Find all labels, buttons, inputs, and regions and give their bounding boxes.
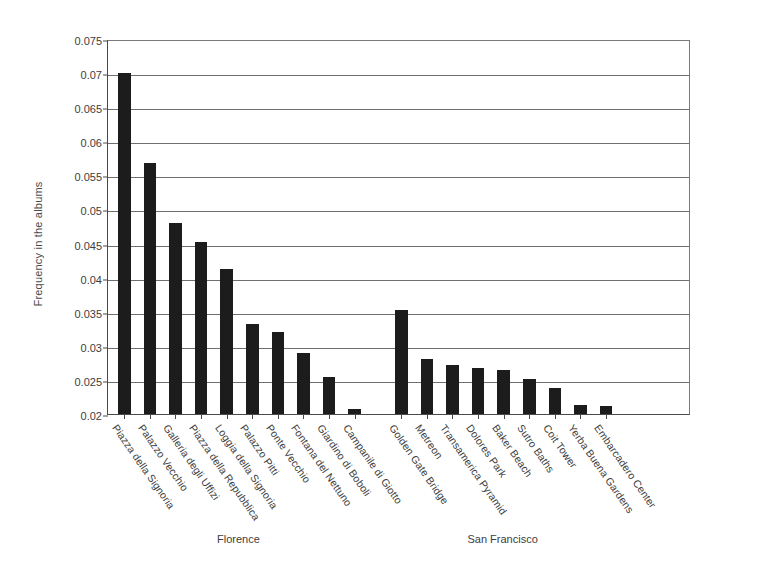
x-tick-mark — [150, 414, 151, 419]
y-tick-mark — [103, 177, 108, 178]
bar — [600, 406, 613, 414]
bar — [169, 223, 182, 414]
y-tick-label: 0.06 — [81, 137, 102, 149]
y-tick-label: 0.075 — [74, 35, 102, 47]
x-tick-mark — [580, 414, 581, 419]
y-tick-mark — [103, 143, 108, 144]
y-tick-label: 0.02 — [81, 410, 102, 422]
bar — [144, 163, 157, 414]
x-tick-mark — [201, 414, 202, 419]
y-tick-label: 0.07 — [81, 69, 102, 81]
y-tick-label: 0.035 — [74, 308, 102, 320]
y-tick-mark — [103, 75, 108, 76]
group-label: San Francisco — [467, 533, 537, 545]
y-tick-mark — [103, 211, 108, 212]
bar — [272, 332, 285, 414]
y-axis-title: Frequency in the albums — [32, 144, 44, 344]
y-tick-label: 0.04 — [81, 274, 102, 286]
bar — [118, 73, 131, 414]
x-tick-mark — [478, 414, 479, 419]
x-tick-mark — [555, 414, 556, 419]
bar-chart-figure: Frequency in the albums 0.020.0250.030.0… — [0, 0, 769, 573]
x-tick-mark — [227, 414, 228, 419]
gridline — [108, 211, 689, 212]
gridline — [108, 75, 689, 76]
bar — [574, 405, 587, 414]
x-tick-mark — [401, 414, 402, 419]
x-tick-mark — [278, 414, 279, 419]
y-tick-label: 0.055 — [74, 171, 102, 183]
y-tick-mark — [103, 41, 108, 42]
x-tick-mark — [606, 414, 607, 419]
y-tick-label: 0.065 — [74, 103, 102, 115]
y-tick-label: 0.025 — [74, 376, 102, 388]
y-tick-mark — [103, 381, 108, 382]
x-tick-mark — [303, 414, 304, 419]
x-tick-mark — [427, 414, 428, 419]
bar — [297, 353, 310, 414]
y-tick-mark — [103, 347, 108, 348]
x-tick-mark — [452, 414, 453, 419]
y-tick-mark — [103, 109, 108, 110]
bar — [446, 365, 459, 414]
bar — [323, 377, 336, 415]
x-tick-mark — [504, 414, 505, 419]
x-tick-mark — [355, 414, 356, 419]
bar — [220, 269, 233, 414]
bar — [523, 379, 536, 414]
y-tick-label: 0.045 — [74, 240, 102, 252]
y-tick-mark — [103, 313, 108, 314]
x-tick-mark — [329, 414, 330, 419]
y-tick-mark — [103, 416, 108, 417]
y-tick-mark — [103, 279, 108, 280]
bar — [497, 370, 510, 414]
x-tick-mark — [175, 414, 176, 419]
plot-area: 0.020.0250.030.0350.040.0450.050.0550.06… — [107, 40, 690, 415]
bar — [472, 368, 485, 414]
y-tick-label: 0.05 — [81, 205, 102, 217]
group-label: Florence — [217, 533, 260, 545]
bar — [395, 310, 408, 414]
x-tick-mark — [252, 414, 253, 419]
gridline — [108, 177, 689, 178]
x-tick-mark — [529, 414, 530, 419]
bar — [195, 242, 208, 414]
gridline — [108, 143, 689, 144]
y-tick-mark — [103, 245, 108, 246]
bar — [549, 388, 562, 414]
x-tick-mark — [124, 414, 125, 419]
bar — [421, 359, 434, 414]
gridline — [108, 109, 689, 110]
bar — [246, 324, 259, 414]
y-tick-label: 0.03 — [81, 342, 102, 354]
